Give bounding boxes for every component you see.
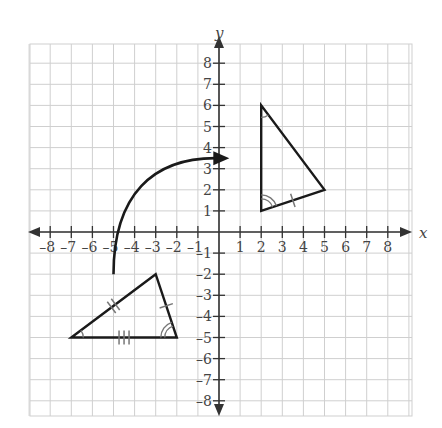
x-tick-label: 6 bbox=[341, 239, 350, 255]
y-tick-label: 7 bbox=[203, 76, 212, 92]
y-tick-label: 2 bbox=[203, 182, 212, 198]
preimage-triangle bbox=[71, 274, 177, 344]
x-tick-label: 1 bbox=[236, 239, 245, 255]
angle-arc-mark bbox=[261, 199, 272, 207]
y-tick-label: –6 bbox=[196, 351, 212, 367]
arrowhead-icon bbox=[213, 151, 229, 165]
coordinate-plane-diagram: –8–7–6–5–4–3–2–112345678 87654321–1–2–3–… bbox=[0, 0, 442, 428]
image-triangle bbox=[261, 105, 324, 210]
x-tick-label: 7 bbox=[362, 239, 371, 255]
triangle-outline bbox=[261, 105, 324, 210]
x-tick-label: 4 bbox=[299, 239, 308, 255]
x-axis-label: x bbox=[419, 224, 428, 242]
y-tick-label: 3 bbox=[203, 161, 212, 177]
x-tick-label: 8 bbox=[383, 239, 392, 255]
x-tick-label: 2 bbox=[257, 239, 266, 255]
grid bbox=[29, 44, 412, 416]
y-tick-label: –5 bbox=[196, 330, 212, 346]
triangle-outline bbox=[71, 274, 177, 337]
x-tick-label: –6 bbox=[81, 239, 97, 255]
y-tick-label: 1 bbox=[203, 203, 212, 219]
y-axis-label: y bbox=[214, 24, 224, 42]
x-tick-label: –8 bbox=[39, 239, 55, 255]
y-tick-label: 6 bbox=[203, 97, 212, 113]
arrow-down-icon bbox=[214, 404, 224, 416]
arrow-right-icon bbox=[400, 227, 412, 237]
y-tick-label: 8 bbox=[203, 55, 212, 71]
x-tick-label: –2 bbox=[166, 239, 182, 255]
y-tick-label: –3 bbox=[196, 287, 212, 303]
x-tick-label: 3 bbox=[278, 239, 287, 255]
y-tick-label: –4 bbox=[196, 308, 212, 324]
x-tick-label: –7 bbox=[60, 239, 76, 255]
angle-arc-mark bbox=[161, 322, 172, 337]
grid-border bbox=[30, 44, 412, 416]
y-tick-label: 4 bbox=[203, 140, 212, 156]
y-tick-label: –1 bbox=[196, 245, 212, 261]
y-tick-label: –7 bbox=[196, 372, 212, 388]
x-tick-label: 5 bbox=[320, 239, 329, 255]
x-tick-label: –3 bbox=[145, 239, 161, 255]
angle-arc-mark bbox=[165, 326, 173, 337]
y-tick-label: –8 bbox=[196, 393, 212, 409]
angle-arc-mark bbox=[261, 195, 276, 206]
y-tick-label: 5 bbox=[203, 119, 212, 135]
y-tick-label: –2 bbox=[196, 266, 212, 282]
x-tick-label: –4 bbox=[124, 239, 140, 255]
